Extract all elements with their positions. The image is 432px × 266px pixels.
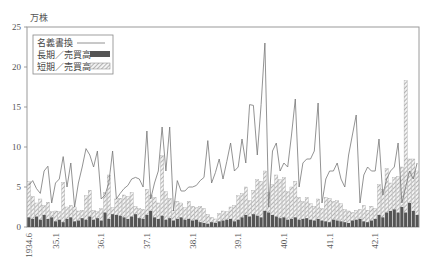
short-term-bar — [358, 209, 361, 219]
short-term-bar — [385, 169, 388, 213]
long-term-bar — [107, 219, 110, 227]
short-term-bar — [138, 209, 141, 219]
short-term-bar — [126, 197, 129, 219]
long-term-bar — [385, 213, 388, 227]
short-term-bar — [320, 209, 323, 221]
short-term-bar — [122, 195, 125, 217]
long-term-bar — [324, 221, 327, 227]
long-term-bar — [400, 207, 403, 227]
long-term-bar — [187, 219, 190, 227]
long-term-bar — [46, 219, 49, 227]
long-term-bar — [366, 222, 369, 227]
long-term-bar — [415, 215, 418, 227]
long-term-bar — [27, 217, 30, 227]
long-term-bar — [263, 211, 266, 227]
long-term-bar — [244, 215, 247, 227]
long-term-bar — [153, 217, 156, 227]
long-term-bar — [313, 221, 316, 227]
short-term-bar — [62, 182, 65, 222]
long-term-bar — [145, 215, 148, 227]
y-tick-label: 15 — [12, 102, 22, 112]
long-term-bar — [412, 211, 415, 227]
long-term-bar — [377, 215, 380, 227]
long-term-bar — [172, 221, 175, 227]
short-term-bar — [244, 187, 247, 215]
short-term-bar — [339, 204, 342, 222]
long-term-bar — [126, 219, 129, 227]
chart-canvas: 万株 0510152025 1934.635.136.137.138.139.1… — [0, 0, 432, 266]
long-term-bar — [54, 221, 57, 227]
short-term-bar — [183, 208, 186, 220]
long-term-bar — [267, 213, 270, 227]
legend-dark-swatch — [90, 51, 110, 57]
long-term-bar — [309, 220, 312, 227]
long-term-bar — [195, 220, 198, 227]
y-tick-label: 10 — [12, 142, 22, 152]
short-term-bar — [54, 211, 57, 221]
long-term-bar — [381, 217, 384, 227]
short-term-bar — [31, 197, 34, 219]
short-term-bar — [396, 177, 399, 213]
long-term-bar — [332, 220, 335, 227]
short-term-bar — [168, 198, 171, 218]
long-term-bar — [138, 218, 141, 227]
short-term-bar — [237, 196, 240, 220]
long-term-bar — [358, 219, 361, 227]
short-term-bar — [271, 185, 274, 215]
long-term-bar — [290, 219, 293, 227]
short-term-bar — [77, 211, 80, 221]
long-term-bar — [248, 217, 251, 227]
x-tick-label: 40.1 — [279, 233, 289, 249]
short-term-bar — [161, 156, 164, 216]
short-term-bar — [355, 210, 358, 220]
long-term-bar — [271, 215, 274, 227]
short-term-bar — [145, 189, 148, 215]
short-term-bar — [130, 193, 133, 217]
long-term-bar — [282, 217, 285, 227]
short-term-bar — [377, 185, 380, 215]
short-term-bar — [328, 198, 331, 222]
long-term-bar — [43, 215, 46, 227]
short-term-bar — [176, 201, 179, 219]
short-term-bar — [282, 177, 285, 217]
x-axis: 1934.635.136.137.138.139.140.141.142.1 — [24, 233, 380, 258]
long-term-bar — [199, 222, 202, 227]
short-term-bar — [111, 208, 114, 214]
long-term-bar — [336, 221, 339, 227]
short-term-bar — [58, 212, 61, 220]
short-term-bar — [415, 171, 418, 215]
short-term-bar — [27, 181, 30, 217]
short-term-bar — [39, 199, 42, 220]
short-term-bar — [134, 206, 137, 214]
short-term-bar — [351, 213, 354, 221]
long-term-bar — [149, 211, 152, 227]
short-term-bar — [408, 159, 411, 203]
short-term-bar — [317, 199, 320, 219]
long-term-bar — [183, 220, 186, 227]
long-term-bar — [202, 223, 205, 227]
long-term-bar — [100, 221, 103, 227]
short-term-bar — [214, 219, 217, 223]
short-term-bar — [309, 204, 312, 220]
long-term-bar — [343, 222, 346, 227]
long-term-bar — [233, 221, 236, 227]
long-term-bar — [286, 220, 289, 227]
long-term-bar — [50, 217, 53, 227]
long-term-bar — [370, 221, 373, 227]
short-term-bar — [180, 203, 183, 217]
long-term-bar — [111, 214, 114, 227]
x-tick-label: 1934.6 — [24, 233, 34, 258]
long-term-bar — [88, 217, 91, 227]
long-term-bar — [180, 217, 183, 227]
short-term-bar — [73, 207, 76, 221]
x-tick-label: 42.1 — [370, 233, 380, 249]
x-tick-label: 35.1 — [51, 233, 61, 249]
x-tick-label: 39.1 — [233, 233, 243, 249]
short-term-bar — [157, 203, 160, 219]
legend-label-short-term: 短期／売買高 — [37, 61, 91, 72]
legend-label-long-term: 長期／売買高 — [37, 49, 91, 60]
short-term-bar — [332, 201, 335, 219]
y-tick-label: 5 — [17, 182, 22, 192]
long-term-bar — [96, 218, 99, 227]
y-tick-label: 20 — [12, 62, 22, 72]
